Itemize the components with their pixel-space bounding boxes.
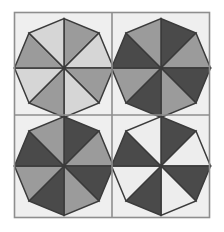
panel-bottom-left <box>15 117 114 216</box>
panel-top-right <box>112 19 211 118</box>
tiling-figure <box>0 0 224 232</box>
panel-top-left <box>15 19 114 118</box>
tiling-canvas <box>0 0 224 232</box>
panel-bottom-right <box>112 117 211 216</box>
